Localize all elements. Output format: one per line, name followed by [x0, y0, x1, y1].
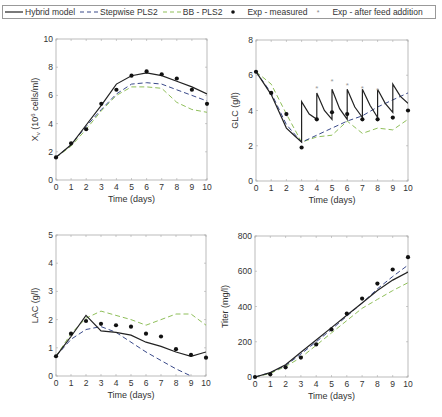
measured-point	[406, 108, 410, 112]
x-tick-label: 5	[129, 378, 134, 388]
y-tick-label: 200	[238, 337, 252, 347]
x-tick-label: 5	[329, 379, 334, 389]
x-tick-label: 1	[69, 182, 74, 192]
measured-point	[391, 267, 395, 271]
x-tick-label: 7	[159, 182, 164, 192]
x-tick-label: 5	[330, 183, 335, 193]
measured-point	[114, 88, 118, 92]
y-tick-label: 6	[248, 70, 253, 80]
measured-point	[253, 375, 257, 379]
x-tick-label: 6	[144, 378, 149, 388]
series-hybrid-model	[56, 315, 206, 356]
measured-point	[174, 347, 178, 351]
y-tick-label: 1	[48, 343, 53, 353]
x-tick-label: 4	[114, 182, 119, 192]
measured-point	[406, 255, 410, 259]
measured-point	[268, 372, 272, 376]
x-tick-label: 2	[284, 183, 289, 193]
measured-point	[345, 112, 349, 116]
y-axis-label: Xv (106 cells/ml)	[30, 78, 41, 141]
x-tick-label: 9	[190, 182, 195, 192]
x-tick-label: 7	[360, 379, 365, 389]
measured-point	[54, 155, 58, 159]
y-tick-label: 0	[48, 175, 53, 185]
x-tick-label: 9	[390, 379, 395, 389]
series-stepwise-pls2	[56, 83, 207, 158]
x-tick-label: 1	[268, 379, 273, 389]
x-axis-label: Time (days)	[108, 194, 155, 204]
measured-point	[269, 91, 273, 95]
measured-point	[159, 334, 163, 338]
measured-point	[144, 332, 148, 336]
series-hybrid-model	[56, 73, 207, 158]
y-tick-label: 0	[247, 372, 252, 382]
y-tick-label: 4	[48, 119, 53, 129]
y-tick-label: 400	[238, 302, 252, 312]
measured-point	[54, 354, 58, 358]
y-tick-label: 6	[48, 90, 53, 100]
x-tick-label: 4	[314, 379, 319, 389]
y-tick-label: 0	[248, 176, 253, 186]
x-tick-label: 6	[344, 379, 349, 389]
measured-point	[391, 115, 395, 119]
measured-point	[360, 117, 364, 121]
measured-point	[129, 74, 133, 78]
measured-point	[314, 342, 318, 346]
x-tick-label: 9	[390, 183, 395, 193]
x-tick-label: 8	[174, 378, 179, 388]
measured-point	[330, 110, 334, 114]
x-tick-label: 10	[403, 183, 413, 193]
x-tick-label: 3	[99, 182, 104, 192]
chart-panel-4: 0123456789100200400600800Time (days)Tite…	[220, 231, 413, 401]
y-tick-label: 8	[48, 62, 53, 72]
x-tick-label: 9	[189, 378, 194, 388]
y-tick-label: 2	[248, 141, 253, 151]
y-tick-label: 0	[48, 371, 53, 381]
chart-panel-1: 0123456789100246810Time (days)Xv (106 ce…	[30, 34, 212, 204]
x-tick-label: 0	[253, 379, 258, 389]
x-tick-label: 1	[69, 378, 74, 388]
measured-point	[84, 127, 88, 131]
measured-point	[99, 322, 103, 326]
measured-point	[129, 325, 133, 329]
y-tick-label: 4	[248, 106, 253, 116]
chart-panel-2: 01234567891002468Time (days)GLC (g/l)***…	[230, 35, 413, 205]
x-tick-label: 3	[299, 183, 304, 193]
y-axis-label: GLC (g/l)	[230, 92, 240, 129]
feed-point: *	[346, 81, 349, 90]
measured-point	[84, 319, 88, 323]
series-hybrid-model	[255, 272, 408, 377]
x-tick-label: 10	[201, 378, 211, 388]
x-tick-label: 2	[84, 182, 89, 192]
x-tick-label: 7	[360, 183, 365, 193]
x-axis-label: Time (days)	[308, 391, 355, 401]
y-tick-label: 5	[48, 230, 53, 240]
x-tick-label: 0	[54, 378, 59, 388]
measured-point	[376, 117, 380, 121]
x-tick-label: 3	[99, 378, 104, 388]
measured-point	[284, 365, 288, 369]
feed-point: *	[361, 84, 364, 93]
measured-point	[315, 117, 319, 121]
feed-point: *	[376, 86, 379, 95]
x-tick-label: 6	[144, 182, 149, 192]
measured-point	[99, 102, 103, 106]
x-tick-label: 0	[54, 182, 59, 192]
measured-point	[190, 88, 194, 92]
series-bb-pls2	[56, 87, 207, 157]
feed-point: *	[330, 77, 333, 86]
y-tick-label: 10	[44, 34, 54, 44]
series-bb-pls2	[56, 311, 206, 356]
measured-point	[299, 356, 303, 360]
x-tick-label: 0	[254, 183, 259, 193]
measured-point	[189, 353, 193, 357]
chart-area: 0123456789100246810Time (days)Xv (106 ce…	[0, 0, 442, 417]
y-tick-label: 600	[238, 266, 252, 276]
y-tick-label: 800	[238, 231, 252, 241]
measured-point	[175, 76, 179, 80]
measured-point	[329, 327, 333, 331]
measured-point	[69, 332, 73, 336]
series-stepwise-pls2	[255, 265, 408, 377]
x-tick-label: 6	[345, 183, 350, 193]
y-axis-label: LAC (g/l)	[30, 288, 40, 324]
